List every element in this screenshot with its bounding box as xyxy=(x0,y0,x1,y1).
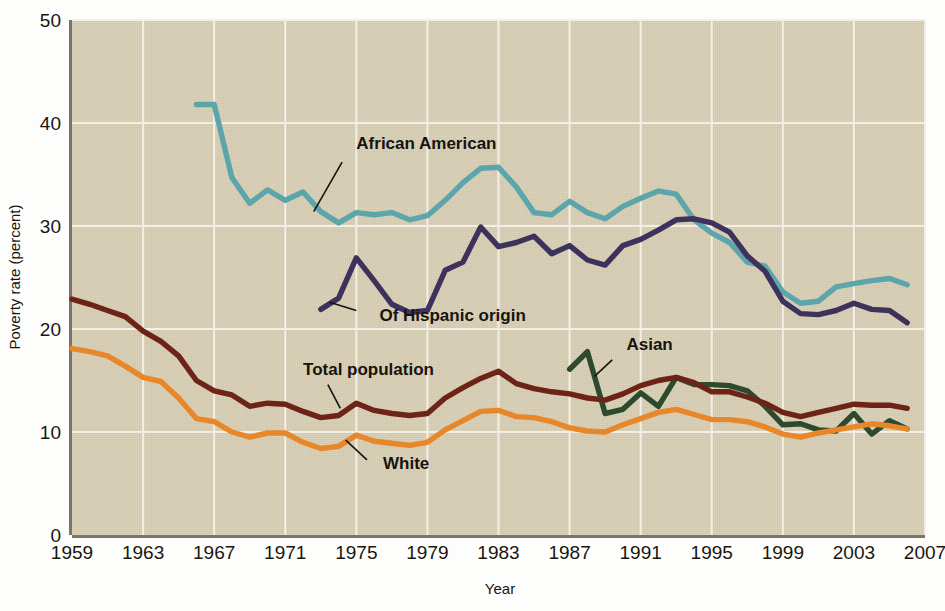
series-label-african-american: African American xyxy=(356,134,496,153)
x-tick-label: 1967 xyxy=(193,542,235,563)
chart-svg: African AmericanOf Hispanic originAsianT… xyxy=(0,0,945,611)
x-tick-label: 1963 xyxy=(122,542,164,563)
x-tick-label: 1975 xyxy=(335,542,377,563)
poverty-rate-chart-figure: African AmericanOf Hispanic originAsianT… xyxy=(0,0,945,611)
series-label-white: White xyxy=(383,454,429,473)
leader-line-asian xyxy=(595,360,613,377)
series-label-total-population: Total population xyxy=(303,360,434,379)
y-axis-title: Poverty rate (percent) xyxy=(6,204,23,349)
x-tick-label: 1959 xyxy=(51,542,93,563)
x-tick-label: 1983 xyxy=(477,542,519,563)
x-axis-title: Year xyxy=(485,580,515,597)
leader-line-total-population xyxy=(328,385,340,409)
x-tick-label: 2003 xyxy=(833,542,875,563)
leader-line-of-hispanic-origin xyxy=(330,302,357,310)
y-axis-tick-labels: 01020304050 xyxy=(40,10,61,546)
x-tick-label: 1991 xyxy=(620,542,662,563)
y-tick-label: 40 xyxy=(40,113,61,134)
gridlines-group xyxy=(72,20,925,535)
y-tick-label: 20 xyxy=(40,319,61,340)
x-tick-label: 1987 xyxy=(548,542,590,563)
y-tick-label: 10 xyxy=(40,422,61,443)
series-annotations-group: African AmericanOf Hispanic originAsianT… xyxy=(303,134,673,473)
series-label-of-hispanic-origin: Of Hispanic origin xyxy=(379,306,525,325)
x-axis-tick-labels: 1959196319671971197519791983198719911995… xyxy=(51,542,945,563)
x-tick-label: 1971 xyxy=(264,542,306,563)
leader-line-african-american xyxy=(314,162,342,212)
x-tick-label: 1995 xyxy=(691,542,733,563)
x-tick-label: 2007 xyxy=(904,542,945,563)
x-tick-label: 1979 xyxy=(406,542,448,563)
y-tick-label: 50 xyxy=(40,10,61,31)
y-tick-label: 30 xyxy=(40,216,61,237)
series-label-asian: Asian xyxy=(626,335,672,354)
x-tick-label: 1999 xyxy=(762,542,804,563)
series-line-african-american xyxy=(196,105,907,304)
